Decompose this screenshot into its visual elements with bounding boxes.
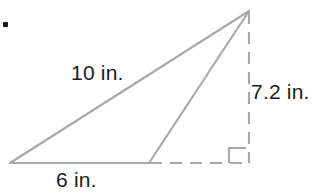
dimension-label-height: 7.2 in.: [251, 81, 310, 102]
right-angle-marker: [229, 148, 246, 163]
geometry-diagram: 10 in. 7.2 in. 6 in.: [0, 0, 318, 194]
dimension-label-base: 6 in.: [56, 169, 97, 190]
dimension-label-slant-side: 10 in.: [71, 62, 124, 83]
inner-slant-line: [149, 11, 249, 163]
slant-side-line: [10, 11, 249, 163]
bullet-point-marker: [3, 22, 8, 27]
